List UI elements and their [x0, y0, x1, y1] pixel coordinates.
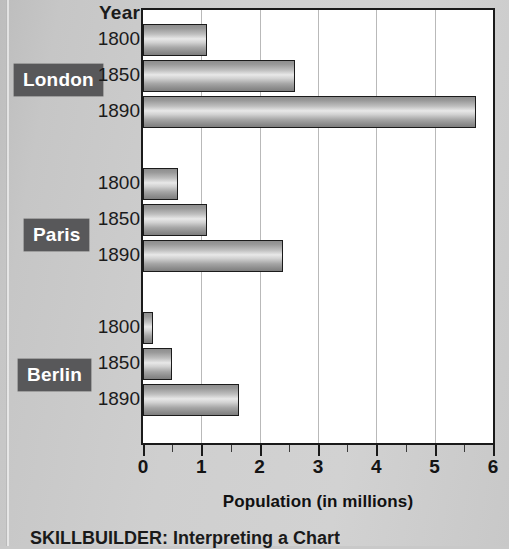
tick-4.5	[406, 445, 407, 452]
tick-2.5	[289, 445, 290, 452]
tick-6	[493, 445, 495, 456]
x-tick-label-6: 6	[488, 456, 499, 478]
bar-berlin-1890	[143, 384, 239, 416]
year-label-paris-1850: 1850	[98, 208, 140, 230]
year-label-berlin-1890: 1890	[98, 388, 140, 410]
bar-paris-1890	[143, 240, 283, 272]
figure-caption: SKILLBUILDER: Interpreting a Chart	[30, 528, 340, 549]
bar-paris-1800	[143, 168, 178, 200]
tick-3.5	[347, 445, 348, 452]
x-tick-label-2: 2	[254, 456, 265, 478]
year-label-berlin-1850: 1850	[98, 352, 140, 374]
tick-2	[260, 445, 262, 456]
bar-berlin-1800	[143, 312, 153, 344]
year-label-london-1800: 1800	[98, 28, 140, 50]
year-label-london-1850: 1850	[98, 64, 140, 86]
group-label-berlin: Berlin	[18, 359, 91, 391]
plot-area	[143, 10, 493, 443]
tick-5.5	[464, 445, 465, 452]
x-tick-label-5: 5	[429, 456, 440, 478]
bar-london-1890	[143, 96, 476, 128]
group-label-paris: Paris	[24, 219, 89, 251]
x-tick-label-1: 1	[196, 456, 207, 478]
plot-frame	[141, 8, 495, 445]
year-axis-header: Year	[99, 2, 140, 24]
tick-3	[318, 445, 320, 456]
page-edge-rule	[6, 0, 9, 546]
tick-1.5	[231, 445, 232, 452]
gridline-5	[435, 10, 436, 443]
tick-0.5	[172, 445, 173, 452]
tick-4	[376, 445, 378, 456]
tick-5	[435, 445, 437, 456]
bar-paris-1850	[143, 204, 207, 236]
year-axis-column: Year 1800 1850 1890 1800 1850 1890 1800 …	[88, 0, 140, 450]
year-label-paris-1800: 1800	[98, 172, 140, 194]
x-axis-title: Population (in millions)	[141, 492, 495, 512]
year-label-london-1890: 1890	[98, 100, 140, 122]
gridline-4	[376, 10, 377, 443]
x-tick-label-4: 4	[371, 456, 382, 478]
bar-london-1800	[143, 24, 207, 56]
gridline-3	[318, 10, 319, 443]
bar-london-1850	[143, 60, 295, 92]
x-axis-tick-labels: 0123456	[141, 456, 495, 482]
year-label-paris-1890: 1890	[98, 244, 140, 266]
bar-berlin-1850	[143, 348, 172, 380]
year-label-berlin-1800: 1800	[98, 316, 140, 338]
x-tick-label-0: 0	[138, 456, 149, 478]
tick-0	[143, 445, 145, 456]
x-tick-label-3: 3	[313, 456, 324, 478]
tick-1	[201, 445, 203, 456]
